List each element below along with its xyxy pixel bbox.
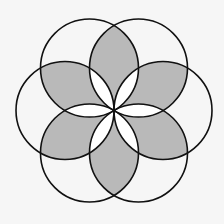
rosette-svg [0, 0, 224, 224]
rosette-diagram [0, 0, 224, 224]
